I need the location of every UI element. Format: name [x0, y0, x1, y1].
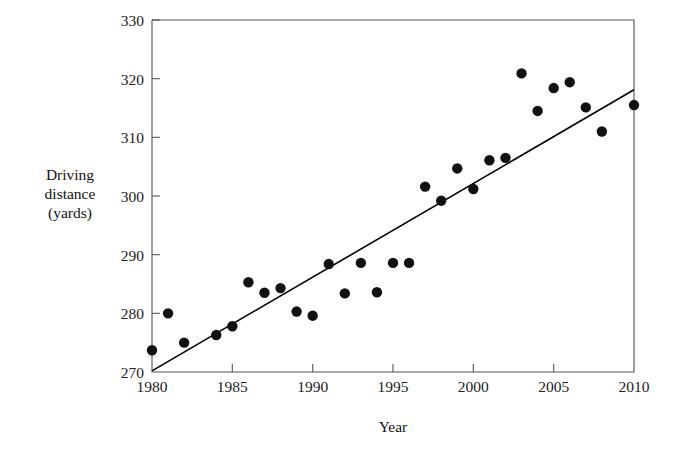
y-axis-title-line3: (yards) [48, 204, 92, 222]
data-point [259, 288, 269, 298]
y-tick-label-290: 290 [121, 247, 145, 264]
y-tick-label-310: 310 [121, 129, 145, 146]
data-point [565, 77, 575, 87]
x-tick-label-2005: 2005 [538, 378, 569, 395]
y-tick-label-300: 300 [121, 188, 145, 205]
data-point [211, 330, 221, 340]
data-point [324, 259, 334, 269]
y-tick-label-320: 320 [121, 71, 145, 88]
data-points-group [147, 68, 639, 355]
x-tick-marks [232, 364, 553, 372]
data-point [597, 126, 607, 136]
data-point [581, 102, 591, 112]
y-axis-title-line2: distance [45, 185, 96, 202]
data-point [500, 153, 510, 163]
y-tick-marks [152, 20, 160, 313]
plot-frame [152, 20, 634, 372]
regression-trend-line [152, 90, 634, 371]
data-point [147, 345, 157, 355]
data-point [484, 155, 494, 165]
data-point [629, 100, 639, 110]
x-tick-label-1980: 1980 [137, 378, 168, 395]
data-point [227, 321, 237, 331]
data-point [340, 288, 350, 298]
x-tick-labels: 1980 1985 1990 1995 2000 2005 2010 [137, 378, 650, 395]
x-axis-title: Year [379, 418, 408, 435]
data-point [307, 310, 317, 320]
chart-canvas: 330 320 310 300 290 280 270 1980 1985 19… [0, 0, 682, 452]
y-axis-title-line1: Driving [46, 166, 94, 183]
data-point [163, 308, 173, 318]
x-tick-label-2000: 2000 [458, 378, 489, 395]
data-point [468, 184, 478, 194]
x-tick-label-1985: 1985 [217, 378, 248, 395]
data-point [179, 337, 189, 347]
y-tick-label-280: 280 [121, 305, 145, 322]
x-tick-label-1995: 1995 [378, 378, 409, 395]
data-point [548, 83, 558, 93]
x-tick-label-2010: 2010 [619, 378, 650, 395]
data-point [291, 306, 301, 316]
data-point [388, 258, 398, 268]
axes-group [152, 20, 634, 372]
data-point [516, 68, 526, 78]
x-tick-label-1990: 1990 [297, 378, 328, 395]
data-point [356, 258, 366, 268]
data-point [243, 277, 253, 287]
trend-line-group [152, 90, 634, 371]
data-point [372, 287, 382, 297]
data-point [420, 181, 430, 191]
data-point [275, 283, 285, 293]
scatter-chart-figure: 330 320 310 300 290 280 270 1980 1985 19… [0, 0, 682, 452]
data-point [436, 195, 446, 205]
data-point [532, 106, 542, 116]
data-point [404, 258, 414, 268]
y-tick-labels: 330 320 310 300 290 280 270 [121, 12, 145, 381]
y-tick-label-330: 330 [121, 12, 145, 29]
data-point [452, 163, 462, 173]
